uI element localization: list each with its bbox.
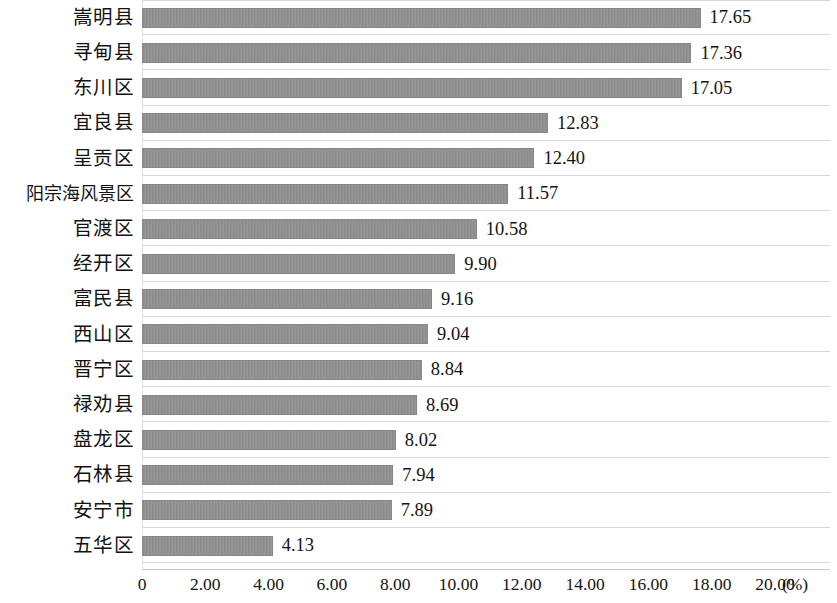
category-label: 呈贡区 <box>0 149 134 169</box>
bar-container: 17.05 <box>142 70 732 105</box>
bar-row: 嵩明县17.65 <box>0 0 837 35</box>
gridline <box>142 562 830 563</box>
bar-row: 东川区17.05 <box>0 70 837 105</box>
bar-container: 9.16 <box>142 282 473 317</box>
bar-container: 7.89 <box>142 493 433 528</box>
category-label: 嵩明县 <box>0 8 134 28</box>
x-tick-label: 10.00 <box>439 576 478 594</box>
bar <box>142 465 393 485</box>
bar-value-label: 8.84 <box>431 360 463 379</box>
bar-row: 西山区9.04 <box>0 317 837 352</box>
bar-row: 禄劝县8.69 <box>0 387 837 422</box>
bar <box>142 500 392 520</box>
x-axis-unit-label: (%) <box>782 576 808 594</box>
x-tick-label: 4.00 <box>253 576 284 594</box>
bar-row: 五华区4.13 <box>0 528 837 563</box>
bar-chart: 嵩明县17.65寻甸县17.36东川区17.05宜良县12.83呈贡区12.40… <box>0 0 837 603</box>
bar <box>142 395 417 415</box>
bar-value-label: 12.83 <box>557 114 599 133</box>
x-tick-label: 2.00 <box>190 576 221 594</box>
category-label: 晋宁区 <box>0 360 134 380</box>
bar-row: 石林县7.94 <box>0 458 837 493</box>
category-label: 寻甸县 <box>0 43 134 63</box>
x-tick-label: 18.00 <box>692 576 731 594</box>
x-tick-label: 8.00 <box>380 576 411 594</box>
bar-row: 呈贡区12.40 <box>0 141 837 176</box>
category-label: 宜良县 <box>0 113 134 133</box>
x-axis-line <box>142 569 830 570</box>
bar-container: 8.02 <box>142 422 437 457</box>
gridline <box>142 0 830 1</box>
bar-value-label: 17.05 <box>691 79 733 98</box>
bar-value-label: 10.58 <box>486 220 528 239</box>
category-label: 富民县 <box>0 289 134 309</box>
category-label: 石林县 <box>0 465 134 485</box>
x-tick-label: 6.00 <box>317 576 348 594</box>
bar <box>142 289 432 309</box>
category-label: 官渡区 <box>0 219 134 239</box>
bar-row: 寻甸县17.36 <box>0 35 837 70</box>
bar-value-label: 9.16 <box>441 290 473 309</box>
bar-container: 7.94 <box>142 458 435 493</box>
bar <box>142 430 396 450</box>
bar-container: 11.57 <box>142 176 558 211</box>
bar-value-label: 17.36 <box>700 44 742 63</box>
bar-container: 9.04 <box>142 317 469 352</box>
bar-value-label: 17.65 <box>710 8 752 27</box>
bar-container: 9.90 <box>142 246 497 281</box>
bar-value-label: 9.90 <box>464 255 496 274</box>
bar <box>142 360 422 380</box>
x-tick-label: 0 <box>138 576 147 594</box>
category-label: 盘龙区 <box>0 430 134 450</box>
bar-value-label: 7.89 <box>401 501 433 520</box>
x-tick-label: 14.00 <box>565 576 604 594</box>
bar-container: 17.36 <box>142 35 742 70</box>
bar <box>142 254 455 274</box>
bar <box>142 8 701 28</box>
bar-container: 12.83 <box>142 106 599 141</box>
category-label: 禄劝县 <box>0 395 134 415</box>
bar-container: 12.40 <box>142 141 585 176</box>
bar-value-label: 8.02 <box>405 431 437 450</box>
bar-container: 8.69 <box>142 387 458 422</box>
bar <box>142 78 682 98</box>
bar-value-label: 12.40 <box>543 149 585 168</box>
bar-row: 富民县9.16 <box>0 282 837 317</box>
bar-row: 盘龙区8.02 <box>0 422 837 457</box>
bar <box>142 219 477 239</box>
bar-container: 10.58 <box>142 211 527 246</box>
x-axis-tick-labels: 02.004.006.008.0010.0012.0014.0016.0018.… <box>0 576 837 603</box>
bar-row: 官渡区10.58 <box>0 211 837 246</box>
bar <box>142 184 508 204</box>
bar <box>142 536 273 556</box>
bar-row: 宜良县12.83 <box>0 106 837 141</box>
x-tick-label: 16.00 <box>629 576 668 594</box>
category-label: 经开区 <box>0 254 134 274</box>
bar-row: 阳宗海风景区11.57 <box>0 176 837 211</box>
category-label: 西山区 <box>0 325 134 345</box>
bar <box>142 113 548 133</box>
bar <box>142 148 534 168</box>
category-label: 安宁市 <box>0 501 134 521</box>
bar <box>142 43 691 63</box>
bar-value-label: 9.04 <box>437 325 469 344</box>
bar-row: 经开区9.90 <box>0 246 837 281</box>
bar-container: 8.84 <box>142 352 463 387</box>
bar-value-label: 4.13 <box>282 536 314 555</box>
bar-value-label: 8.69 <box>426 396 458 415</box>
bar <box>142 324 428 344</box>
bar-value-label: 11.57 <box>517 184 558 203</box>
bar-container: 17.65 <box>142 0 751 35</box>
bar-value-label: 7.94 <box>402 466 434 485</box>
bar-container: 4.13 <box>142 528 314 563</box>
bar-row: 晋宁区8.84 <box>0 352 837 387</box>
x-tick-label: 12.00 <box>502 576 541 594</box>
chart-plot-area: 嵩明县17.65寻甸县17.36东川区17.05宜良县12.83呈贡区12.40… <box>0 0 837 569</box>
category-label: 阳宗海风景区 <box>0 185 134 203</box>
bar-row: 安宁市7.89 <box>0 493 837 528</box>
category-label: 东川区 <box>0 78 134 98</box>
category-label: 五华区 <box>0 536 134 556</box>
